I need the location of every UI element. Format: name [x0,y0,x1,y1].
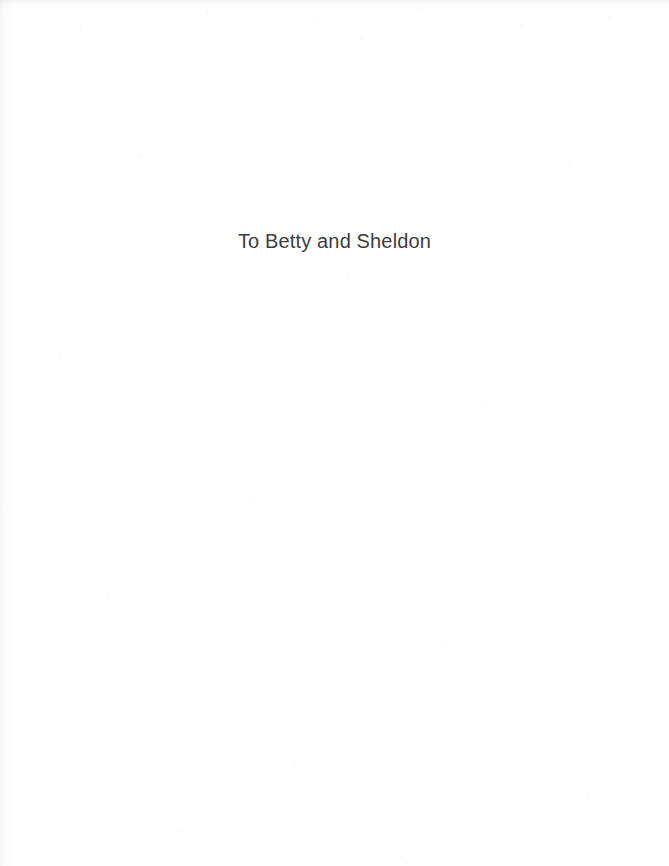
dedication-page: To Betty and Sheldon [0,0,669,866]
scan-top-edge-shadow [0,0,669,10]
dedication-block: To Betty and Sheldon [0,228,669,254]
scan-gutter-shadow [0,0,14,866]
scan-speckle-noise [0,0,669,866]
dedication-text: To Betty and Sheldon [238,228,431,254]
